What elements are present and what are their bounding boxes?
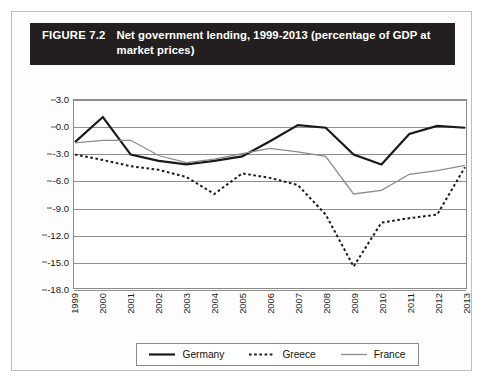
y-tick-mark: [42, 289, 47, 290]
x-axis-label: 2010: [377, 293, 388, 314]
x-axis-label: 2005: [237, 293, 248, 314]
y-axis-label: -18.0: [47, 284, 69, 295]
y-tick-mark: [47, 153, 52, 154]
x-axis-label: 2009: [349, 293, 360, 314]
y-tick-mark: [47, 208, 52, 209]
legend-item-france[interactable]: France: [341, 349, 406, 360]
x-axis-label: 1999: [69, 293, 80, 314]
series-line-france: [75, 140, 465, 194]
line-solid-black-icon: [149, 350, 175, 359]
legend-label: Greece: [282, 349, 315, 360]
y-axis-label: -3.0: [52, 148, 69, 159]
line-solid-gray-icon: [341, 350, 367, 359]
gridline: [74, 290, 466, 291]
y-axis-label: -15.0: [47, 256, 69, 267]
y-tick-mark: [47, 180, 52, 181]
series-line-greece: [75, 155, 465, 267]
y-axis-tick-labels: 3.00.0-3.0-6.0-9.0-12.0-15.0-18.0: [28, 99, 69, 289]
x-axis-label: 2000: [97, 293, 108, 314]
x-axis-label: 2001: [125, 293, 136, 314]
x-axis-label: 2006: [265, 293, 276, 314]
y-axis-label: 3.0: [56, 94, 69, 105]
y-tick-mark: [42, 235, 47, 236]
figure-number: FIGURE 7.2: [42, 28, 106, 43]
figure-title: Net government lending, 1999-2013 (perce…: [117, 28, 445, 58]
x-axis-label: 2007: [293, 293, 304, 314]
y-axis-label: -12.0: [47, 229, 69, 240]
x-axis-label: 2002: [153, 293, 164, 314]
chart-legend: GermanyGreeceFrance: [136, 343, 419, 366]
x-axis-label: 2012: [433, 293, 444, 314]
x-axis-tick-labels: 1999200020012002200320042005200620072008…: [73, 293, 467, 341]
legend-label: France: [374, 349, 406, 360]
x-axis-label: 2008: [321, 293, 332, 314]
y-axis-label: -6.0: [52, 175, 69, 186]
legend-item-germany[interactable]: Germany: [149, 349, 224, 360]
y-tick-mark: [51, 126, 56, 127]
y-axis-label: -9.0: [52, 202, 69, 213]
series-line-germany: [75, 117, 465, 164]
figure-card: FIGURE 7.2 Net government lending, 1999-…: [11, 11, 472, 371]
figure-header-bar: FIGURE 7.2 Net government lending, 1999-…: [30, 23, 455, 65]
x-axis-label: 2013: [461, 293, 472, 314]
legend-label: Germany: [182, 349, 224, 360]
x-axis-label: 2003: [181, 293, 192, 314]
legend-item-greece[interactable]: Greece: [249, 349, 315, 360]
y-tick-mark: [42, 262, 47, 263]
y-axis-label: 0.0: [56, 121, 69, 132]
series-lines: [74, 100, 466, 288]
plot-area: [73, 99, 467, 289]
line-dotted-black-icon: [249, 350, 275, 359]
x-axis-label: 2011: [405, 293, 416, 313]
y-tick-mark: [51, 99, 56, 100]
x-axis-label: 2004: [209, 293, 220, 314]
